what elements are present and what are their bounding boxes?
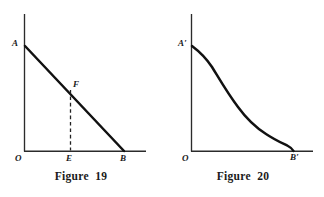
label-point-a-prime: A′ — [178, 39, 187, 48]
line-segment-ab — [25, 46, 124, 151]
curve-a-prime-b-prime — [192, 46, 294, 151]
figure-20: A′ O B′ Figure 20 — [162, 0, 324, 197]
label-point-b: B — [120, 154, 126, 163]
figure-20-drawing — [162, 0, 324, 168]
figure-19-caption: Figure 19 — [0, 170, 162, 182]
label-point-o: O — [182, 154, 189, 163]
label-point-e: E — [66, 154, 72, 163]
label-point-b-prime: B′ — [290, 153, 299, 162]
label-point-o: O — [15, 154, 22, 163]
figure-20-caption: Figure 20 — [162, 170, 324, 182]
figure-sheet: A F O E B Figure 19 A′ O B′ Figure 20 — [0, 0, 324, 197]
label-point-a: A — [12, 39, 18, 48]
label-point-f: F — [73, 80, 79, 89]
figure-19: A F O E B Figure 19 — [0, 0, 162, 197]
figure-19-drawing — [0, 0, 162, 168]
